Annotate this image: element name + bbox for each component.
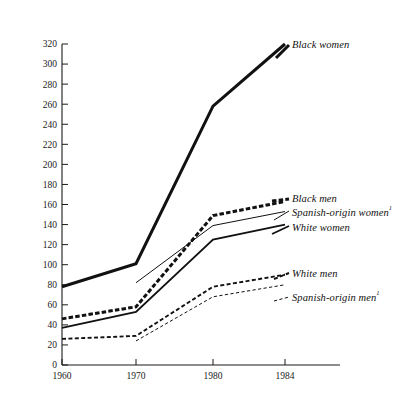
legend-leader-1 xyxy=(272,199,289,201)
y-tick-label: 260 xyxy=(43,100,58,110)
series-line-spanish-origin-men xyxy=(136,285,285,341)
chart-container: 0204060801001201401601802002202402602803… xyxy=(0,0,409,408)
legend-leader-4 xyxy=(274,273,289,279)
series-line-black-women xyxy=(62,44,285,287)
y-tick-label: 0 xyxy=(52,360,57,370)
legend-label-white-women: White women xyxy=(292,222,350,233)
legend-label-white-men: White men xyxy=(292,268,338,279)
y-tick-label: 180 xyxy=(43,180,58,190)
x-tick-label: 1984 xyxy=(276,371,295,381)
y-tick-label: 300 xyxy=(43,59,58,69)
y-tick-label: 200 xyxy=(43,160,58,170)
legend-leader-5 xyxy=(274,297,289,301)
legend-label-black-women: Black women xyxy=(292,39,349,50)
x-tick-label: 1980 xyxy=(204,371,223,381)
series-line-white-men xyxy=(62,275,285,339)
y-tick-label: 280 xyxy=(43,80,58,90)
y-tick-label: 120 xyxy=(43,240,58,250)
y-tick-label: 320 xyxy=(43,39,58,49)
series-line-black-men xyxy=(62,201,285,318)
series-group xyxy=(62,44,285,341)
y-tick-label: 80 xyxy=(48,280,58,290)
y-tick-label: 20 xyxy=(48,340,58,350)
series-line-spanish-origin-women xyxy=(136,212,285,283)
axes-group xyxy=(62,44,340,365)
x-axis-ticks: 1960197019801984 xyxy=(53,359,295,381)
legend-group: Black womenBlack menSpanish-origin women… xyxy=(292,39,392,303)
legend-leader-lines xyxy=(272,45,289,301)
y-tick-label: 40 xyxy=(48,320,58,330)
line-chart: 0204060801001201401601802002202402602803… xyxy=(0,0,409,408)
legend-label-spanish-origin-women: Spanish-origin women1 xyxy=(292,203,392,218)
x-tick-label: 1970 xyxy=(127,371,146,381)
y-tick-label: 220 xyxy=(43,140,58,150)
y-tick-label: 240 xyxy=(43,120,58,130)
y-tick-label: 160 xyxy=(43,200,58,210)
y-tick-label: 60 xyxy=(48,300,58,310)
x-tick-label: 1960 xyxy=(53,371,72,381)
y-tick-label: 100 xyxy=(43,260,58,270)
y-tick-label: 140 xyxy=(43,220,58,230)
legend-label-spanish-origin-men: Spanish-origin men1 xyxy=(292,288,380,303)
legend-label-black-men: Black men xyxy=(292,193,337,204)
y-axis-ticks: 0204060801001201401601802002202402602803… xyxy=(43,39,68,370)
